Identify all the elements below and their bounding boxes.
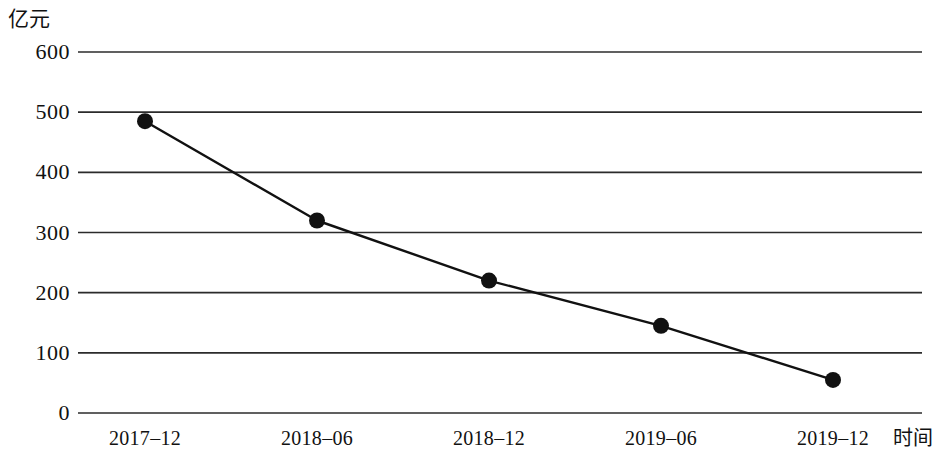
x-axis-tick-label: 2017–12 (109, 427, 181, 449)
x-axis-tick-label: 2018–12 (453, 427, 525, 449)
x-axis-tick-label: 2018–06 (281, 427, 353, 449)
x-axis-tick-labels: 2017–122018–062018–122019–062019–12 (0, 0, 941, 450)
x-axis-caption: 时间 (893, 427, 933, 449)
line-chart: 亿元 0100200300400500600 2017–122018–06201… (0, 0, 941, 450)
x-axis-tick-label: 2019–06 (625, 427, 697, 449)
x-axis-tick-label: 2019–12 (797, 427, 869, 449)
